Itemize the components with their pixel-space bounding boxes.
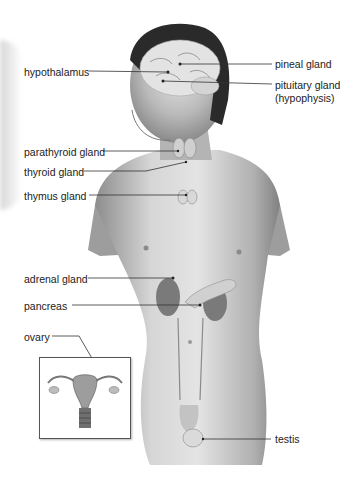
label-parathyroid-gland: parathyroid gland [24,146,105,158]
label-pancreas: pancreas [24,300,67,312]
left-ovary [49,387,59,394]
cerebellum [191,77,219,95]
left-kidney [156,278,180,316]
label-pineal-gland: pineal gland [275,58,332,70]
label-thymus-gland: thymus gland [24,190,86,202]
label-hypophysis: (hypophysis) [275,92,335,104]
label-pituitary-gland: pituitary gland [275,79,340,91]
right-ovary [109,387,119,394]
label-testis: testis [275,433,300,445]
uterus [73,375,97,408]
label-adrenal-gland: adrenal gland [24,273,88,285]
ovary-inset [39,357,131,439]
testis-organ [183,429,203,447]
label-ovary: ovary [24,331,50,343]
label-thyroid-gland: thyroid gland [24,166,84,178]
uterus-illustration [40,358,130,438]
label-hypothalamus: hypothalamus [24,66,89,78]
